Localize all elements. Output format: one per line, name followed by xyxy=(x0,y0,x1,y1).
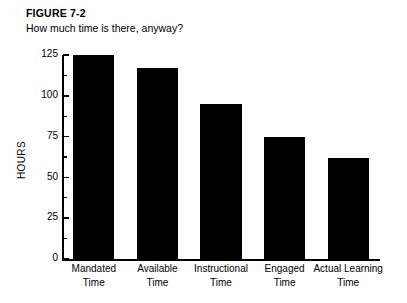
bar xyxy=(200,104,241,259)
figure-number: FIGURE 7-2 xyxy=(26,7,366,20)
y-axis-tick-label: 100 xyxy=(41,90,58,100)
figure-caption: FIGURE 7-2 How much time is there, anywa… xyxy=(26,7,366,35)
x-axis-tick-label-line2: Time xyxy=(265,276,305,290)
x-axis-tick-label-line2: Time xyxy=(313,276,383,290)
bar xyxy=(328,158,369,259)
plot-area: 0255075100125 xyxy=(62,55,380,259)
y-axis-tick-label: 0 xyxy=(52,253,58,263)
x-axis-tick-label: MandatedTime xyxy=(72,262,116,289)
x-axis-tick-label-line1: Engaged xyxy=(265,263,305,274)
figure-subtitle: How much time is there, anyway? xyxy=(26,21,366,35)
bar xyxy=(264,137,305,259)
x-axis-tick-label: EngagedTime xyxy=(265,262,305,289)
x-axis-tick-label-line1: Actual Learning xyxy=(313,263,383,274)
x-axis-tick-label-line2: Time xyxy=(72,276,116,290)
x-axis-line xyxy=(62,259,380,261)
x-axis-tick-label-line2: Time xyxy=(137,276,177,290)
x-axis-tick-label-line1: Available xyxy=(137,263,177,274)
y-axis-tick-label: 50 xyxy=(47,172,58,182)
bar-series xyxy=(62,55,380,259)
y-axis-tick-label: 125 xyxy=(41,49,58,59)
x-axis-tick-label: InstructionalTime xyxy=(194,262,248,289)
y-axis-tick-label: 25 xyxy=(47,212,58,222)
x-axis-labels: MandatedTimeAvailableTimeInstructionalTi… xyxy=(62,262,380,296)
x-axis-tick-label-line2: Time xyxy=(194,276,248,290)
figure-container: FIGURE 7-2 How much time is there, anywa… xyxy=(0,0,407,303)
x-axis-tick-label: AvailableTime xyxy=(137,262,177,289)
y-axis-title: HOURS xyxy=(16,141,27,179)
bar xyxy=(137,68,178,259)
y-axis-tick-label: 75 xyxy=(47,131,58,141)
bar xyxy=(73,55,114,259)
x-axis-tick-label-line1: Instructional xyxy=(194,263,248,274)
x-axis-tick-label-line1: Mandated xyxy=(72,263,116,274)
x-axis-tick-label: Actual LearningTime xyxy=(313,262,383,289)
